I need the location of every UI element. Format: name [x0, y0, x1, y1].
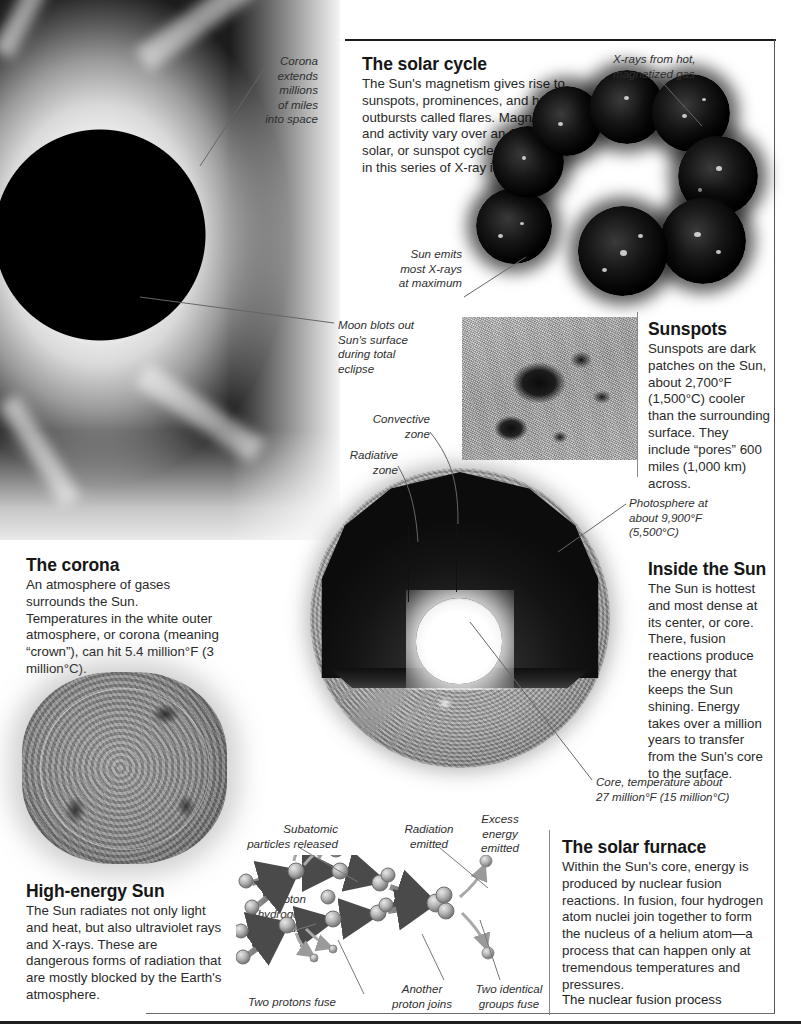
corona-body: An atmosphere of gases surrounds the Sun…	[26, 577, 222, 678]
sunspots-divider	[637, 312, 638, 477]
solar-furnace-body: Within the Sun's core, energy is produce…	[562, 859, 774, 994]
sunspots-body: Sunspots are dark patches on the Sun, ab…	[648, 341, 772, 492]
high-energy-sun-limb	[40, 688, 210, 850]
convective-zone-marker	[456, 518, 457, 592]
high-energy-heading: High-energy Sun	[26, 882, 226, 901]
leader-line-proton	[296, 916, 318, 934]
leader-line-another-proton	[420, 932, 446, 982]
leader-line-photosphere	[556, 500, 630, 556]
callout-moon-blots-out: Moon blots out Sun's surface during tota…	[338, 318, 458, 376]
leader-line-two-groups	[478, 918, 504, 982]
xray-sun-image	[578, 206, 668, 296]
fusion-figure-caption: The nuclear fusion process	[562, 992, 777, 1007]
sunspot-photograph	[462, 317, 637, 460]
solar-furnace-heading: The solar furnace	[562, 838, 777, 857]
leader-line-subatomic	[300, 846, 362, 886]
xray-sun-image	[660, 198, 746, 284]
xray-sun-image	[476, 188, 552, 264]
leader-line-radiative	[396, 462, 428, 546]
callout-sun-emits-most-xrays: Sun emits most X-rays at maximum	[372, 247, 462, 291]
high-energy-body: The Sun radiates not only light and heat…	[26, 903, 222, 1004]
inside-sun-heading: Inside the Sun	[648, 560, 776, 579]
page-canvas: Corona extends millions of miles into sp…	[0, 0, 801, 1028]
corona-heading: The corona	[26, 556, 226, 575]
leader-line-maximum	[460, 255, 530, 301]
leader-line-moon	[140, 292, 340, 332]
leader-line-convective	[428, 428, 474, 528]
leader-line-corona	[190, 62, 270, 172]
callout-radiative-zone: Radiative zone	[330, 448, 398, 477]
callout-convective-zone: Convective zone	[352, 412, 430, 441]
bottom-rule	[146, 1013, 775, 1014]
leader-line-radiation	[440, 846, 492, 892]
sunspots-heading: Sunspots	[648, 320, 773, 339]
leader-line-two-protons	[336, 938, 366, 996]
leader-line-core	[468, 620, 596, 784]
callout-xrays-from-hot-gas: X-rays from hot, magnetized gas	[613, 52, 743, 81]
page-bottom-bar	[0, 1021, 801, 1024]
inside-sun-body: The Sun is hottest and most dense at its…	[648, 581, 774, 783]
leader-line-xrays	[660, 80, 710, 130]
callout-photosphere: Photosphere at about 9,900°F (5,500°C)	[629, 496, 779, 540]
